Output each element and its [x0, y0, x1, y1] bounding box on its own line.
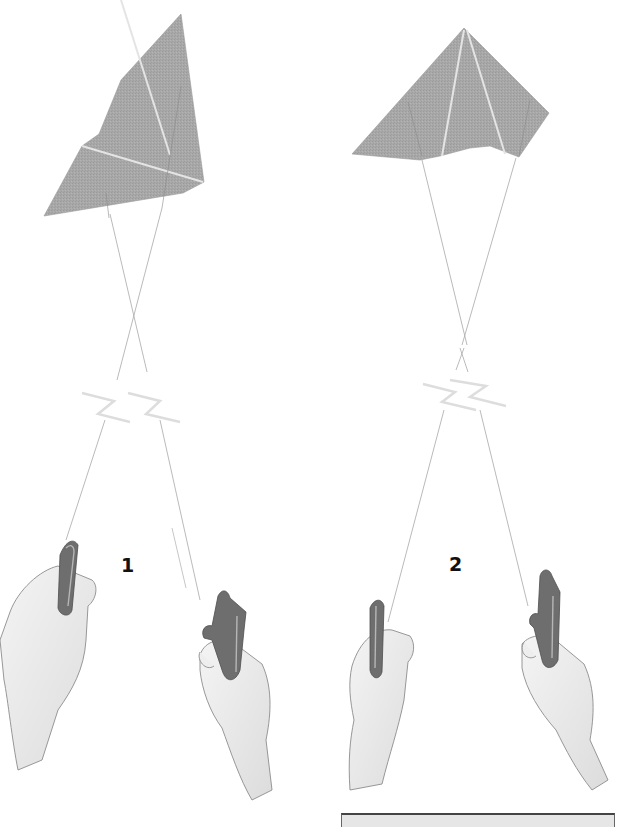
panel-2: [349, 28, 608, 790]
right-hand-2: [522, 570, 608, 790]
step-number-1: 1: [121, 556, 134, 575]
kite-1: [44, 0, 204, 218]
caption-box: [341, 813, 615, 827]
left-hand-1: [0, 541, 96, 770]
left-hand-2: [349, 600, 413, 790]
right-hand-1: [199, 591, 272, 800]
flying-lines-1: [66, 208, 200, 600]
line-break-zigzag-icon: [82, 393, 180, 422]
line-break-zigzag-icon: [423, 380, 506, 410]
panel-1: [0, 0, 272, 800]
kite-2: [352, 28, 549, 160]
step-number-2: 2: [449, 555, 462, 574]
